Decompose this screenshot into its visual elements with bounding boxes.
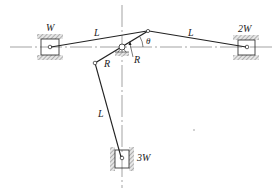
label-link-bottom: L [97, 108, 104, 119]
label-link-right: L [187, 27, 194, 38]
link-right [149, 31, 246, 47]
crank-pivot [119, 44, 125, 50]
crank-pin-upper [146, 29, 149, 32]
label-r-upper: R [133, 54, 140, 65]
mechanism-diagram: W 2W 3W L L L θ R [0, 0, 275, 191]
dimension-arrow-r [130, 44, 133, 57]
pivot-ground-hatch [115, 52, 129, 56]
angle-arc [140, 37, 143, 47]
guide-top-hatch [37, 34, 63, 39]
links: L L L [51, 27, 246, 157]
guide-right-hatch [129, 147, 134, 171]
slider-3w: 3W [110, 147, 152, 171]
label-w: W [46, 22, 56, 33]
label-theta: θ [146, 36, 151, 46]
slider-2w: 2W [233, 23, 259, 60]
guide-left-hatch [110, 147, 115, 171]
stray-dot [193, 129, 195, 131]
label-link-left: L [93, 27, 100, 38]
label-2w: 2W [238, 23, 253, 34]
crank-pin-lower [93, 61, 97, 65]
guide-bottom-hatch [37, 55, 63, 60]
guide-bottom-hatch [233, 55, 259, 60]
guide-top-hatch [233, 35, 259, 40]
label-r-lower: R [103, 58, 110, 69]
label-3w: 3W [136, 152, 152, 163]
slider-w: W [37, 22, 63, 60]
